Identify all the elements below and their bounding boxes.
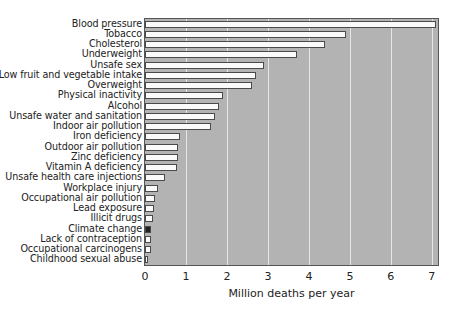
bar [145, 256, 148, 263]
bar [145, 195, 155, 202]
bar [145, 144, 178, 151]
risk-factor-bar-chart: Blood pressureTobaccoCholesterolUnderwei… [0, 0, 458, 312]
gridline [350, 19, 351, 265]
bar [145, 103, 219, 110]
x-tick-label: 2 [217, 270, 237, 283]
bar [145, 164, 177, 171]
bar [145, 31, 346, 38]
x-axis-label: Million deaths per year [144, 287, 439, 300]
bar [145, 113, 215, 120]
bar [145, 51, 297, 58]
bar [145, 123, 211, 130]
gridline [432, 19, 433, 265]
bar [145, 205, 154, 212]
category-label: Physical inactivity [58, 90, 142, 100]
x-tick-label: 5 [340, 270, 360, 283]
x-tick-label: 3 [258, 270, 278, 283]
category-label: Childhood sexual abuse [30, 254, 142, 264]
category-label: Illicit drugs [91, 213, 142, 223]
bar [145, 133, 180, 140]
bar [145, 62, 264, 69]
bar [145, 82, 252, 89]
bar [145, 236, 151, 243]
plot-area [144, 18, 439, 266]
bar [145, 41, 325, 48]
category-label: Underweight [82, 49, 142, 59]
bar [145, 174, 165, 181]
x-tick-label: 1 [176, 270, 196, 283]
bar [145, 154, 178, 161]
bar [145, 185, 158, 192]
bar [145, 92, 223, 99]
bar [145, 215, 153, 222]
x-tick-label: 7 [422, 270, 442, 283]
bar [145, 72, 256, 79]
x-tick-label: 4 [299, 270, 319, 283]
x-tick-label: 6 [381, 270, 401, 283]
bar [145, 21, 436, 28]
gridline [391, 19, 392, 265]
category-label: Iron deficiency [73, 131, 142, 141]
bar-highlighted [145, 226, 151, 233]
category-label: Unsafe health care injections [5, 172, 142, 182]
bar [145, 246, 151, 253]
gridline [309, 19, 310, 265]
x-tick-label: 0 [135, 270, 155, 283]
